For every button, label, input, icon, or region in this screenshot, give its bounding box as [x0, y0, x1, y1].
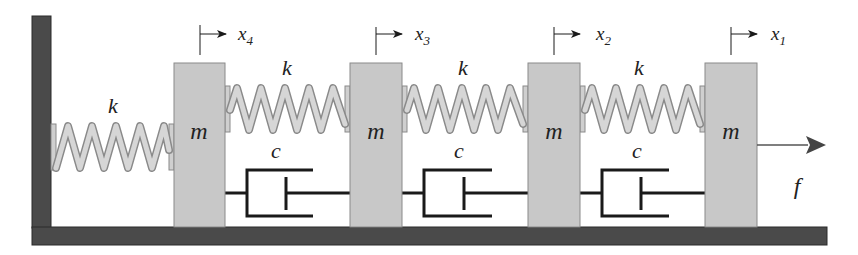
damper-label-2: c [454, 138, 464, 163]
mass-1-label: m [722, 118, 739, 144]
svg-text:x2: x2 [595, 23, 611, 48]
spring-label-4: k [634, 55, 645, 80]
spring-label-2: k [282, 55, 293, 80]
x4-subscript: 4 [246, 33, 253, 48]
svg-text:x4: x4 [237, 23, 253, 48]
spring-m3-m2 [402, 86, 528, 132]
spring-label-1: k [108, 93, 119, 118]
mass-2 [528, 63, 580, 227]
spring-label-3: k [458, 55, 469, 80]
displacement-marker-x4: x4 [200, 23, 253, 55]
displacement-marker-x2: x2 [554, 23, 611, 55]
damper-m4-m3 [225, 170, 350, 216]
force-arrow [757, 136, 826, 154]
spring-m4-m3 [225, 86, 350, 132]
damper-label-3: c [632, 138, 642, 163]
mass-4-label: m [190, 118, 207, 144]
mass-3 [350, 63, 402, 227]
displacement-marker-x3: x3 [376, 23, 430, 55]
x2-subscript: 2 [604, 33, 611, 48]
x3-subscript: 3 [422, 33, 430, 48]
mass-spring-damper-diagram: m m m m k k k k c c c x4 x3 x2 x1 f [0, 0, 858, 255]
x1-subscript: 1 [779, 33, 786, 48]
spring-m2-m1 [580, 86, 705, 132]
svg-text:x1: x1 [770, 23, 786, 48]
damper-m2-m1 [580, 170, 705, 216]
ground [32, 227, 827, 245]
displacement-marker-x1: x1 [731, 23, 786, 55]
mass-2-label: m [545, 118, 562, 144]
mass-4 [174, 63, 225, 227]
spring-wall-m4 [51, 124, 174, 170]
damper-m3-m2 [402, 170, 528, 216]
svg-text:x3: x3 [414, 23, 430, 48]
damper-label-1: c [271, 138, 281, 163]
mass-3-label: m [367, 118, 384, 144]
mass-1 [705, 63, 757, 227]
fixed-wall [32, 16, 51, 228]
force-label: f [794, 173, 804, 199]
